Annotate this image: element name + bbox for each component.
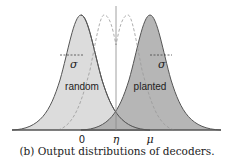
- planted-label: planted: [134, 81, 167, 92]
- distribution-diagram: σ σ random planted 0 η μ: [0, 0, 234, 163]
- figure-caption: (b) Output distributions of decoders.: [0, 145, 234, 157]
- axis-label-zero: 0: [79, 134, 85, 145]
- sigma-label-right: σ: [158, 58, 166, 71]
- sigma-label-left: σ: [70, 58, 78, 71]
- random-label: random: [65, 81, 99, 92]
